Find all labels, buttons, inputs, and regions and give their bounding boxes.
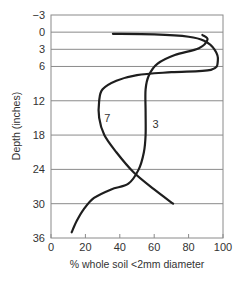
y-axis-ticks: −30361218243036 [32, 9, 45, 244]
x-tick-label: 20 [79, 241, 91, 253]
x-tick-label: 0 [48, 241, 54, 253]
x-tick-label: 80 [182, 241, 194, 253]
y-tick-label: 18 [33, 129, 45, 141]
y-tick-label: 30 [33, 198, 45, 210]
series-labels: 73 [104, 112, 158, 130]
x-tick-label: 60 [148, 241, 160, 253]
series-7-label: 7 [104, 112, 110, 124]
depth-profile-chart: −30361218243036 020406080100 73 % whole … [0, 0, 246, 285]
y-axis-label: Depth (inches) [10, 92, 22, 160]
x-tick-label: 100 [214, 241, 232, 253]
y-tick-label: 24 [33, 163, 45, 175]
y-tick-label: 6 [39, 60, 45, 72]
gridlines [51, 32, 223, 204]
y-tick-label: 0 [39, 26, 45, 38]
y-tick-label: 3 [39, 43, 45, 55]
series-curves [72, 34, 218, 232]
y-tick-label: 36 [33, 232, 45, 244]
x-axis-label: % whole soil <2mm diameter [70, 258, 205, 270]
series-3-label: 3 [152, 118, 158, 130]
x-axis-ticks: 020406080100 [48, 234, 232, 253]
x-tick-label: 40 [114, 241, 126, 253]
y-tick-label: 12 [33, 95, 45, 107]
series-3-curve [72, 35, 208, 232]
y-tick-label: −3 [32, 9, 45, 21]
